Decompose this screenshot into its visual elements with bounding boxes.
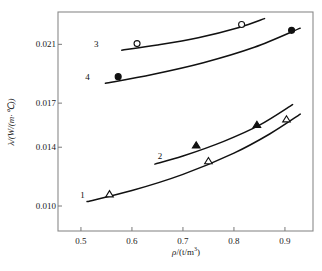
y-axis-tick-label: 0.017 [32,98,56,108]
data-point-open-triangle [205,158,213,164]
data-point-filled-triangle [192,142,200,148]
series-3 [122,19,265,51]
data-point-open-triangle [283,116,291,122]
data-point-filled-circle [289,27,295,33]
series-label-2: 2 [158,151,163,161]
x-axis-tick-label: 0.8 [228,236,239,246]
x-axis-title: ρ/(t/m3) [172,246,200,257]
data-point-open-circle [134,41,140,47]
series-4 [105,27,300,83]
series-label-1: 1 [80,190,85,200]
y-axis-tick-label: 0.010 [32,201,56,211]
series-label-4: 4 [85,72,90,82]
series-1 [87,114,300,201]
data-point-open-triangle [106,191,114,197]
y-axis-tick-label: 0.021 [32,39,56,49]
series-2 [155,105,293,165]
y-axis-title: λ/(W/(m·℃)) [6,98,16,145]
x-axis-tick-label: 0.9 [279,236,290,246]
data-point-filled-circle [115,74,121,80]
y-axis-tick-label: 0.014 [32,142,56,152]
series-label-3: 3 [94,39,99,49]
x-axis-tick-label: 0.5 [75,236,86,246]
series-curve-1 [87,114,300,201]
x-axis-title-close: ) [197,247,200,257]
chart-container: ρ/(t/m3) λ/(W/(m·℃)) 0.50.60.70.80.90.01… [0,0,322,271]
series-curve-2 [155,105,293,165]
x-axis-tick-label: 0.7 [177,236,188,246]
y-axis-title-text: λ/(W/(m·℃)) [6,98,16,145]
x-axis-tick-label: 0.6 [126,236,137,246]
x-axis-title-unit: /(t/m [176,247,194,257]
data-point-open-circle [239,21,245,27]
